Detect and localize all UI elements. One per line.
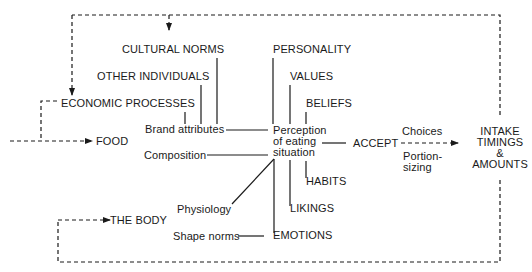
node-emotions: EMOTIONS: [273, 230, 332, 241]
label-portion-sizing: Portion- sizing: [403, 151, 442, 173]
node-brand-attributes: Brand attributes: [145, 124, 224, 135]
perception-line-3: situation: [273, 147, 327, 158]
node-other-individuals: OTHER INDIVIDUALS: [97, 71, 209, 82]
node-accept: ACCEPT: [353, 138, 398, 149]
node-intake-timings-amounts: INTAKE TIMINGS & AMOUNTS: [468, 126, 532, 170]
node-personality: PERSONALITY: [273, 44, 351, 55]
intake-line-4: AMOUNTS: [468, 159, 532, 170]
node-values: VALUES: [290, 71, 333, 82]
node-food: FOOD: [96, 136, 128, 147]
node-economic-processes: ECONOMIC PROCESSES: [61, 98, 195, 109]
economic-to-food-path: [41, 101, 57, 141]
node-the-body: THE BODY: [110, 215, 167, 226]
node-perception-of-eating-situation: Perception of eating situation: [273, 125, 327, 158]
label-choices: Choices: [402, 126, 442, 137]
node-likings: LIKINGS: [290, 203, 334, 214]
portion-sizing-line-2: sizing: [403, 162, 442, 173]
line-physiology-to-perception: [232, 159, 274, 204]
node-cultural-norms: CULTURAL NORMS: [122, 44, 224, 55]
node-beliefs: BELIEFS: [306, 98, 352, 109]
node-shape-norms: Shape norms: [173, 231, 240, 242]
node-habits: HABITS: [306, 176, 346, 187]
node-composition: Composition: [144, 150, 206, 161]
node-physiology: Physiology: [177, 204, 231, 215]
